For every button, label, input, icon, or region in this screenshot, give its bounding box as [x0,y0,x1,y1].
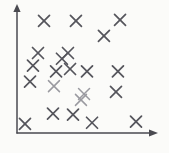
scatter-point-marker [110,86,121,97]
scatter-point-marker [68,109,79,120]
scatter-point-marker [39,15,50,26]
scatter-plot-chart [0,0,169,153]
scatter-point-marker [115,14,126,25]
y-axis-arrowhead [13,4,20,12]
scatter-point-marker [48,81,59,92]
scatter-point-marker [33,48,44,59]
scatter-point-marker [98,30,109,41]
scatter-point-marker [79,89,90,100]
scatter-point-marker [19,118,30,129]
scatter-point-marker [65,64,76,75]
scatter-point-marker [27,60,38,71]
scatter-point-marker [87,117,98,128]
scatter-point-marker [131,116,142,127]
scatter-point-marker [70,15,81,26]
plot-canvas [0,0,169,153]
scatter-point-marker [56,53,67,64]
scatter-point-marker [47,108,58,119]
x-axis-arrowhead [149,129,158,136]
scatter-point-marker [82,66,93,77]
data-markers-group [19,14,141,129]
scatter-point-marker [75,94,86,105]
scatter-point-marker [112,66,123,77]
scatter-point-marker [25,76,36,87]
scatter-point-marker [51,66,62,77]
